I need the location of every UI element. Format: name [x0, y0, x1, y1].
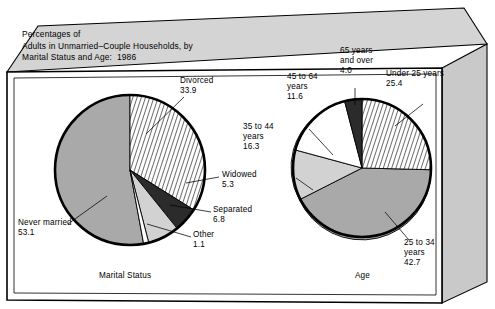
box-side-face: [442, 44, 487, 303]
title-line-3: Marital Status and Age: 1986: [22, 52, 136, 62]
label-65-over: 65 years and over 4.0: [340, 46, 373, 77]
label-45-64: 45 to 64 years 11.6: [287, 72, 318, 103]
label-divorced: Divorced 33.9: [180, 76, 214, 96]
title-line-1: Percentages of: [22, 29, 80, 39]
title-line-2: Adults in Unmarried–Couple Households, b…: [22, 41, 193, 51]
label-never-married: Never married 53.1: [18, 218, 72, 238]
label-other: Other 1.1: [193, 230, 214, 250]
page-title: Percentages ofAdults in Unmarried–Couple…: [22, 29, 193, 64]
label-25-34: 25 to 34 years 42.7: [404, 238, 435, 269]
caption-marital-status: Marital Status: [99, 271, 151, 280]
label-widowed: Widowed 5.3: [222, 170, 257, 190]
label-under-25: Under 25 years 25.4: [386, 69, 444, 89]
chart-figure: Percentages ofAdults in Unmarried–Couple…: [0, 0, 495, 309]
label-separated: Separated 6.8: [213, 205, 252, 225]
caption-age: Age: [355, 271, 370, 280]
label-35-44: 35 to 44 years 16.3: [243, 122, 274, 153]
